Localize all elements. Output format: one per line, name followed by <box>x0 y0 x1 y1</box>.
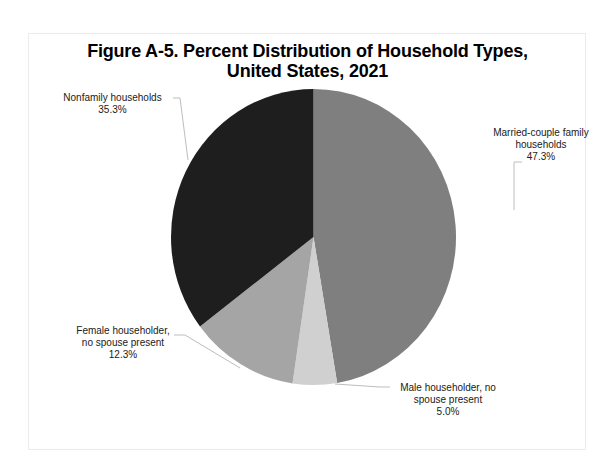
label-nonfamily-line-1: Nonfamily households <box>55 92 170 104</box>
label-nonfamily: Nonfamily households 35.3% <box>55 92 170 116</box>
label-male-householder: Male householder, no spouse present 5.0% <box>388 382 508 418</box>
label-married-line-2: households <box>476 139 606 151</box>
label-female-line-2: no spouse present <box>68 337 178 349</box>
label-female-value: 12.3% <box>68 349 178 361</box>
label-female-householder: Female householder, no spouse present 12… <box>68 325 178 361</box>
leader-line-married <box>514 162 522 210</box>
leader-line-male <box>335 384 390 387</box>
label-female-line-1: Female householder, <box>68 325 178 337</box>
label-married-value: 47.3% <box>476 151 606 163</box>
label-married-line-1: Married-couple family <box>476 127 606 139</box>
label-male-line-1: Male householder, no <box>388 382 508 394</box>
slice-married-couple <box>314 89 457 383</box>
label-male-line-2: spouse present <box>388 394 508 406</box>
label-male-value: 5.0% <box>388 406 508 418</box>
label-nonfamily-value: 35.3% <box>55 104 170 116</box>
label-married-couple: Married-couple family households 47.3% <box>476 127 606 163</box>
leader-line-nonfamily <box>173 98 188 160</box>
pie-chart <box>0 0 615 473</box>
